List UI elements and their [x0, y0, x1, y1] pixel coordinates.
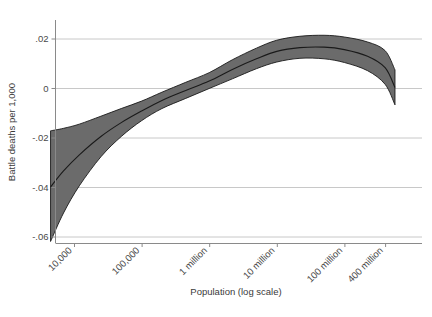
y-tick-label: -.04 — [32, 182, 48, 193]
y-axis-title: Battle deaths per 1,000 — [6, 83, 17, 181]
x-axis-title: Population (log scale) — [190, 286, 281, 297]
x-tick-label: 10,000 — [46, 245, 74, 273]
x-tick-label: 10 million — [241, 245, 277, 281]
chart-figure: .020-.02-.04-.06 10,000100,0001 million1… — [0, 0, 432, 317]
y-tick-label: -.02 — [32, 132, 48, 143]
y-tick-label: .02 — [35, 33, 48, 44]
y-tick-label: 0 — [43, 83, 48, 94]
y-tick-label: -.06 — [32, 231, 48, 242]
x-axis-ticks: 10,000100,0001 million10 million100 mill… — [46, 243, 386, 285]
x-tick-label: 400 million — [345, 245, 385, 285]
x-tick-label: 1 million — [177, 245, 209, 277]
x-tick-label: 100,000 — [109, 245, 141, 277]
x-tick-label: 100 million — [304, 245, 344, 285]
chart-canvas: .020-.02-.04-.06 10,000100,0001 million1… — [0, 0, 432, 317]
